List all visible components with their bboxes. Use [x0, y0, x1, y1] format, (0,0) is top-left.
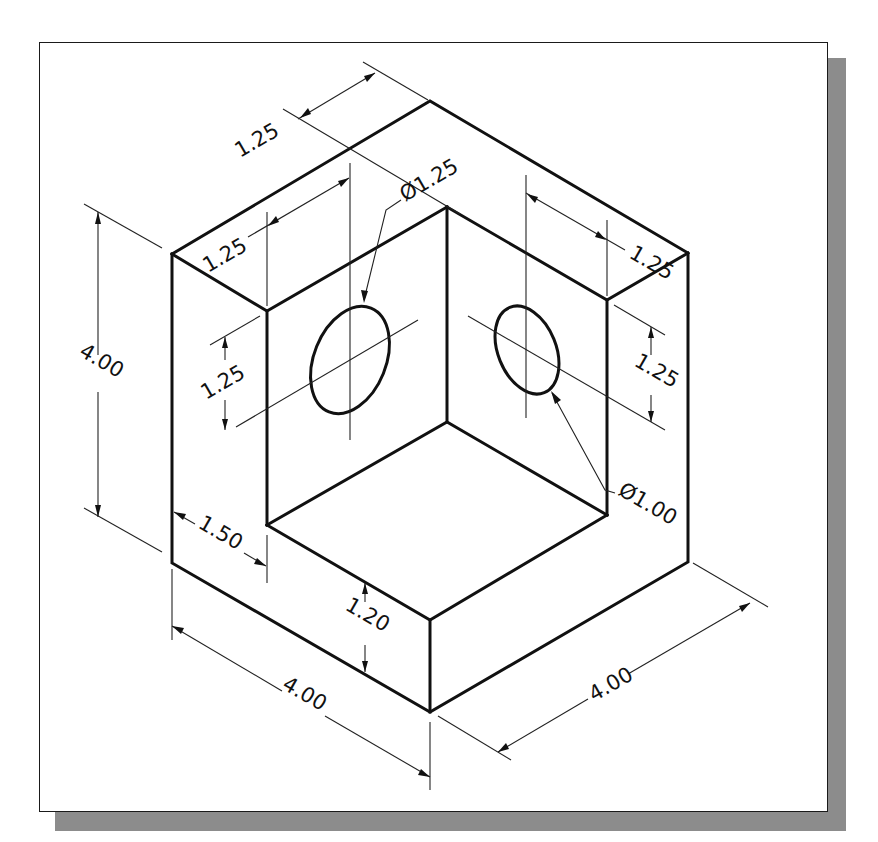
- ext-top-back: [363, 62, 428, 100]
- label-base-height: 1.20: [342, 593, 395, 637]
- leader-left-hole: [364, 200, 401, 300]
- label-left-hole-diameter: Ø1.25: [396, 154, 463, 206]
- label-top-depth: 1.25: [231, 118, 284, 162]
- floor-back-edges: [267, 422, 607, 525]
- dim-width-right-upper: [628, 603, 750, 674]
- ext-right-bottom: [693, 563, 768, 607]
- ext-top-inner: [283, 109, 460, 214]
- floor-front-edges: [267, 515, 607, 620]
- dim-right-wall: [526, 193, 625, 250]
- ext-left-hole-top: [210, 316, 260, 345]
- dim-width-right-lower: [498, 699, 588, 752]
- label-right-hole-height: 1.25: [631, 349, 684, 393]
- label-overall-width-left: 4.00: [279, 672, 332, 716]
- ext-height-top: [84, 204, 162, 248]
- centerlines: [236, 163, 665, 440]
- label-base-offset: 1.50: [195, 511, 248, 555]
- label-left-wall: 1.25: [199, 233, 252, 277]
- right-hole-horizontal-centerline: [468, 316, 665, 430]
- dim-left-wall: [248, 178, 349, 237]
- label-right-wall: 1.25: [626, 241, 679, 285]
- label-right-hole-diameter: Ø1.00: [615, 478, 682, 530]
- ext-height-bottom: [84, 508, 162, 552]
- label-left-hole-height: 1.25: [197, 360, 250, 404]
- ext-right-hole-top: [614, 305, 665, 335]
- ext-front-right: [438, 716, 511, 760]
- dimension-labels: 1.25 1.25 1.25 Ø1.25 Ø1.00 4.00 1.25 1.2…: [76, 118, 684, 716]
- isometric-drawing: 1.25 1.25 1.25 Ø1.25 Ø1.00 4.00 1.25 1.2…: [0, 0, 878, 842]
- holes: [296, 295, 571, 426]
- dim-width-left-upper: [172, 626, 282, 691]
- dim-width-left-lower: [325, 716, 430, 777]
- label-overall-width-right: 4.00: [585, 662, 638, 706]
- label-overall-height: 4.00: [76, 339, 129, 383]
